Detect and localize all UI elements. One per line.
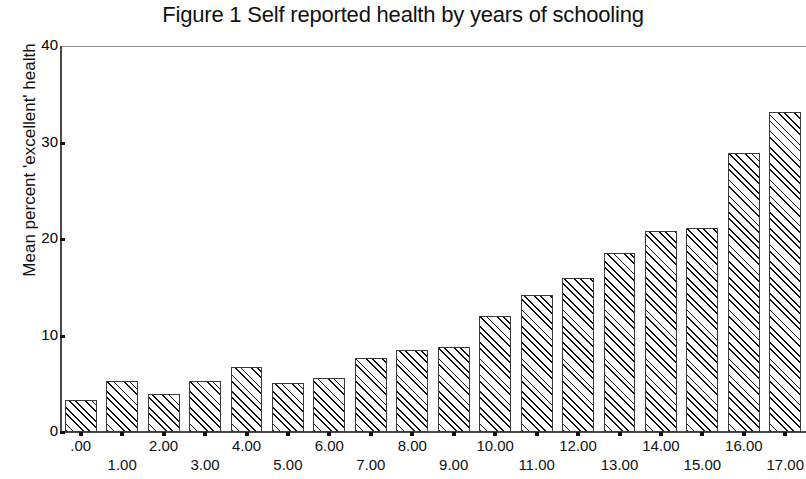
y-tick-label: 40 bbox=[0, 36, 66, 53]
bar bbox=[65, 400, 97, 432]
bar bbox=[396, 350, 428, 432]
bar bbox=[769, 112, 801, 432]
x-tick-mark bbox=[700, 432, 704, 436]
x-tick-mark bbox=[286, 432, 290, 436]
bar bbox=[438, 347, 470, 432]
bar bbox=[189, 381, 221, 432]
x-tick-mark bbox=[493, 432, 497, 436]
bar bbox=[645, 231, 677, 432]
x-tick-label: 7.00 bbox=[341, 456, 401, 473]
bar bbox=[728, 153, 760, 432]
figure-container: Figure 1 Self reported health by years o… bbox=[0, 0, 806, 479]
bar bbox=[355, 358, 387, 432]
x-tick-mark bbox=[245, 432, 249, 436]
bar-series bbox=[60, 46, 806, 432]
x-tick-label: 9.00 bbox=[424, 456, 484, 473]
x-tick-label: 12.00 bbox=[548, 437, 608, 454]
chart-title: Figure 1 Self reported health by years o… bbox=[0, 2, 806, 28]
bar bbox=[604, 253, 636, 432]
x-tick-label: 15.00 bbox=[672, 456, 732, 473]
x-tick-mark bbox=[410, 432, 414, 436]
x-tick-label: 10.00 bbox=[465, 437, 525, 454]
bar bbox=[272, 383, 304, 432]
x-tick-label: 14.00 bbox=[631, 437, 691, 454]
bar bbox=[479, 316, 511, 432]
y-tick-label: 10 bbox=[0, 326, 66, 343]
x-tick-mark bbox=[203, 432, 207, 436]
y-axis-label: Mean percent 'excellent' health bbox=[20, 10, 40, 310]
x-tick-label: 11.00 bbox=[507, 456, 567, 473]
x-tick-mark bbox=[535, 432, 539, 436]
x-tick-mark bbox=[120, 432, 124, 436]
x-tick-mark bbox=[452, 432, 456, 436]
x-tick-mark bbox=[162, 432, 166, 436]
x-tick-mark bbox=[659, 432, 663, 436]
x-tick-mark bbox=[369, 432, 373, 436]
bar bbox=[231, 367, 263, 432]
x-tick-label: 4.00 bbox=[217, 437, 277, 454]
x-tick-mark bbox=[576, 432, 580, 436]
x-tick-mark bbox=[327, 432, 331, 436]
x-tick-label: 2.00 bbox=[134, 437, 194, 454]
bar bbox=[313, 378, 345, 432]
x-tick-mark bbox=[742, 432, 746, 436]
x-tick-mark bbox=[783, 432, 787, 436]
x-tick-label: 6.00 bbox=[299, 437, 359, 454]
y-tick-label: 30 bbox=[0, 133, 66, 150]
x-tick-label: 8.00 bbox=[382, 437, 442, 454]
x-tick-label: 3.00 bbox=[175, 456, 235, 473]
x-tick-label: 13.00 bbox=[590, 456, 650, 473]
x-tick-label: 1.00 bbox=[92, 456, 152, 473]
x-tick-mark bbox=[79, 432, 83, 436]
bar bbox=[148, 394, 180, 432]
x-tick-label: 16.00 bbox=[714, 437, 774, 454]
x-tick-label: .00 bbox=[51, 437, 111, 454]
x-tick-mark bbox=[618, 432, 622, 436]
bar bbox=[686, 228, 718, 432]
bar bbox=[521, 295, 553, 432]
bar bbox=[562, 278, 594, 432]
x-tick-label: 17.00 bbox=[755, 456, 806, 473]
y-tick-label: 20 bbox=[0, 229, 66, 246]
x-tick-label: 5.00 bbox=[258, 456, 318, 473]
bar bbox=[106, 381, 138, 432]
